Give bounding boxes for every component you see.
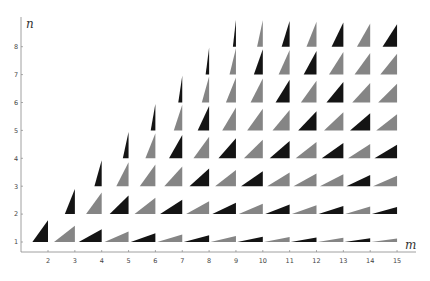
x-tick-label: 9	[234, 257, 238, 265]
triangle-marker	[373, 176, 397, 186]
triangle-marker	[326, 82, 343, 103]
triangle-marker	[237, 237, 263, 242]
triangle-marker	[140, 165, 156, 187]
triangle-marker	[273, 110, 290, 130]
triangle-marker	[306, 22, 316, 47]
triangle-marker	[151, 104, 156, 131]
triangle-marker	[186, 201, 209, 214]
y-tick-label: 6	[14, 99, 18, 107]
y-tick-label: 2	[14, 210, 18, 218]
triangle-marker	[54, 226, 75, 242]
triangle-marker	[184, 235, 209, 242]
triangle-markers	[32, 20, 397, 242]
triangle-marker	[270, 141, 290, 158]
triangle-marker	[329, 52, 343, 75]
triangle-marker	[145, 133, 155, 158]
triangle-marker	[218, 138, 235, 158]
triangle-marker	[267, 172, 289, 186]
y-axis-label: n	[26, 17, 34, 31]
x-tick-label: 15	[393, 257, 401, 265]
triangle-marker	[348, 144, 370, 158]
triangle-marker	[254, 49, 263, 74]
triangle-marker	[247, 109, 263, 131]
triangle-marker	[193, 137, 209, 159]
triangle-marker	[376, 114, 397, 130]
triangle-marker	[169, 135, 182, 158]
triangle-marker	[291, 238, 317, 242]
chart: 23456789101112131415 12345678 m n	[0, 0, 430, 281]
triangle-marker	[350, 113, 370, 130]
triangle-marker	[241, 171, 263, 186]
x-tick-label: 10	[259, 257, 267, 265]
triangle-marker	[372, 207, 397, 214]
triangle-marker	[264, 237, 290, 242]
triangle-marker	[110, 195, 129, 214]
triangle-marker	[215, 170, 236, 186]
triangle-marker	[239, 204, 263, 214]
triangle-marker	[94, 160, 101, 186]
triangle-marker	[345, 207, 370, 215]
triangle-marker	[380, 54, 397, 75]
y-tick-label: 1	[14, 238, 18, 246]
x-tick-label: 14	[366, 257, 374, 265]
triangle-marker	[298, 111, 316, 130]
triangle-marker	[355, 53, 371, 75]
triangle-marker	[346, 175, 370, 186]
triangle-marker	[160, 200, 182, 214]
y-tick-label: 5	[14, 127, 18, 135]
triangle-marker	[233, 20, 236, 47]
triangle-marker	[79, 229, 102, 242]
triangle-marker	[198, 106, 209, 130]
triangle-marker	[222, 107, 236, 130]
triangle-marker	[135, 198, 156, 214]
triangle-marker	[276, 80, 290, 103]
triangle-marker	[86, 192, 102, 214]
triangle-marker	[319, 206, 344, 214]
triangle-marker	[116, 162, 128, 186]
x-axis-label: m	[405, 238, 416, 252]
triangle-marker	[230, 48, 236, 74]
triangle-marker	[294, 173, 317, 186]
triangle-marker	[244, 140, 263, 159]
triangle-marker	[174, 105, 182, 131]
triangle-marker	[265, 205, 289, 215]
triangle-marker	[332, 23, 344, 47]
x-tick-label: 7	[180, 257, 184, 265]
y-tick-label: 8	[14, 43, 18, 51]
triangle-marker	[189, 168, 209, 186]
triangle-marker	[344, 238, 370, 242]
x-tick-label: 13	[339, 257, 347, 265]
triangle-marker	[318, 238, 344, 242]
triangle-marker	[292, 205, 317, 214]
y-tick-label: 3	[14, 183, 18, 191]
triangle-marker	[304, 51, 317, 75]
triangle-marker	[371, 238, 397, 242]
y-tick-label: 7	[14, 71, 18, 79]
triangle-marker	[282, 21, 290, 47]
triangle-marker	[352, 83, 370, 103]
triangle-marker	[123, 132, 129, 158]
triangle-marker	[296, 142, 317, 158]
triangle-marker	[157, 234, 182, 242]
x-tick-label: 12	[312, 257, 320, 265]
triangle-marker	[279, 50, 290, 75]
triangle-marker	[164, 167, 182, 187]
triangle-marker	[257, 20, 263, 46]
x-tick-label: 4	[100, 257, 104, 265]
triangle-marker	[322, 143, 344, 158]
triangle-marker	[211, 236, 236, 242]
x-tick-label: 5	[126, 257, 130, 265]
triangle-marker	[212, 203, 236, 214]
x-tick-label: 11	[286, 257, 294, 265]
triangle-marker	[226, 78, 236, 103]
x-tick-label: 6	[153, 257, 157, 265]
triangle-marker	[374, 145, 397, 158]
triangle-marker	[320, 174, 343, 186]
triangle-marker	[378, 84, 397, 103]
triangle-marker	[206, 48, 209, 75]
triangle-marker	[251, 79, 263, 103]
triangle-marker	[301, 81, 317, 103]
y-tick-label: 4	[14, 155, 18, 163]
triangle-marker	[105, 232, 129, 242]
y-ticks: 12345678	[14, 43, 23, 246]
